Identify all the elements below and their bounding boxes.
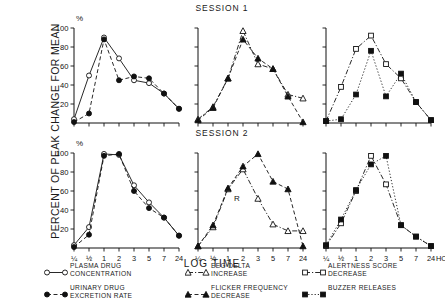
x-tick-label: 24 <box>427 254 435 263</box>
series-line <box>326 156 431 246</box>
series-line <box>198 169 303 246</box>
percent-symbol: % <box>76 139 83 148</box>
legend-label: PLASMA DRUG CONCENTRATION <box>70 262 132 277</box>
data-point <box>429 244 434 249</box>
data-point <box>414 100 419 105</box>
data-point <box>162 215 167 220</box>
data-point <box>72 245 77 250</box>
legend-marker <box>303 270 308 275</box>
data-point <box>285 186 291 192</box>
filled-circle-icon <box>44 285 70 294</box>
legend-marker <box>63 292 68 297</box>
open-square-icon <box>302 263 328 272</box>
legend-marker <box>303 292 308 297</box>
legend-label: URINARY DRUG EXCRETION RATE <box>70 284 132 299</box>
data-point <box>117 151 122 156</box>
data-point <box>255 196 261 202</box>
data-point <box>162 91 167 96</box>
plot-area-session2-alertness: ¼½1235724HOURS <box>300 145 445 270</box>
data-point <box>414 234 419 239</box>
data-point <box>255 55 261 61</box>
legend-entry-buzzer-releases: BUZZER RELEASES <box>302 284 398 294</box>
legend-label: BUZZER RELEASES <box>328 284 396 292</box>
legend-label: FLICKER FREQUENCY DECREASE <box>211 284 288 299</box>
legend-entry-eeg-delta-increase: EEG DELTA INCREASE <box>185 262 288 277</box>
data-point <box>324 119 329 124</box>
data-point <box>240 163 246 169</box>
data-point <box>369 33 374 38</box>
data-point <box>255 151 261 157</box>
data-point <box>354 47 359 52</box>
open-triangle-icon <box>185 263 211 272</box>
y-tick-label: 60 <box>60 187 68 196</box>
filled-triangle-icon <box>185 285 211 294</box>
panel-session1-eeg <box>172 20 317 145</box>
legend-entry-urinary-drug-excretion-rate: URINARY DRUG EXCRETION RATE <box>44 284 132 299</box>
data-point <box>147 76 152 81</box>
data-point <box>384 153 389 158</box>
data-point <box>384 182 389 187</box>
data-point <box>255 61 261 67</box>
axis-lines <box>326 28 431 123</box>
data-point <box>240 28 246 34</box>
legend-marker <box>45 292 50 297</box>
legend-label: ALERTNESS SCORE DECREASE <box>328 262 398 277</box>
data-point <box>102 153 107 158</box>
data-point <box>324 243 329 248</box>
data-point <box>270 221 276 227</box>
legend-column-1: PLASMA DRUG CONCENTRATIONURINARY DRUG EX… <box>44 262 132 306</box>
data-point <box>354 188 359 193</box>
legend-marker <box>321 292 326 297</box>
data-point <box>102 37 107 42</box>
data-point <box>399 223 404 228</box>
percent-symbol: % <box>76 14 83 23</box>
panel-session1-alertness <box>300 20 445 145</box>
panel-session2-eeg: ¼½1235724R <box>172 145 317 270</box>
data-point <box>339 117 344 122</box>
y-tick-label: 60 <box>60 62 68 71</box>
panel-session2-alertness: ¼½1235724HOURS <box>300 145 445 270</box>
data-point <box>87 73 92 78</box>
data-point <box>369 162 374 167</box>
data-point <box>117 78 122 83</box>
legend-entry-alertness-score-decrease: ALERTNESS SCORE DECREASE <box>302 262 398 277</box>
data-point <box>147 200 152 205</box>
data-point <box>369 153 374 158</box>
data-point <box>270 66 276 72</box>
data-point <box>354 92 359 97</box>
data-point <box>132 189 137 194</box>
legend-entry-flicker-frequency-decrease: FLICKER FREQUENCY DECREASE <box>185 284 288 299</box>
legend-marker <box>321 270 326 275</box>
legend-marker <box>203 269 209 275</box>
plot-area-session1-eeg <box>172 20 317 145</box>
y-tick-label: 100 <box>56 24 69 33</box>
legend-label: EEG DELTA INCREASE <box>211 262 250 277</box>
data-point <box>384 94 389 99</box>
data-point <box>384 62 389 67</box>
data-point <box>87 232 92 237</box>
session-1-title: SESSION 1 <box>162 3 282 13</box>
series-line <box>326 36 431 122</box>
y-tick-label: 100 <box>56 149 69 158</box>
data-point <box>429 118 434 123</box>
data-point <box>147 81 152 86</box>
series-line <box>74 39 179 122</box>
data-point <box>270 178 276 184</box>
y-tick-label: 80 <box>60 168 68 177</box>
y-tick-label: 80 <box>60 43 68 52</box>
data-point <box>72 120 77 125</box>
legend-marker <box>63 270 68 275</box>
plot-area-session2-eeg: ¼½1235724R <box>172 145 317 270</box>
x-axis-unit-hours: HOURS <box>436 254 445 263</box>
annotation-r: R <box>234 194 240 203</box>
data-point <box>369 48 374 53</box>
plot-area-session1-alertness <box>300 20 445 145</box>
y-tick-label: 20 <box>60 100 68 109</box>
filled-square-icon <box>302 285 328 294</box>
legend-column-2: EEG DELTA INCREASEFLICKER FREQUENCY DECR… <box>185 262 288 306</box>
data-point <box>399 76 404 81</box>
data-point <box>210 222 216 228</box>
data-point <box>399 71 404 76</box>
data-point <box>339 85 344 90</box>
